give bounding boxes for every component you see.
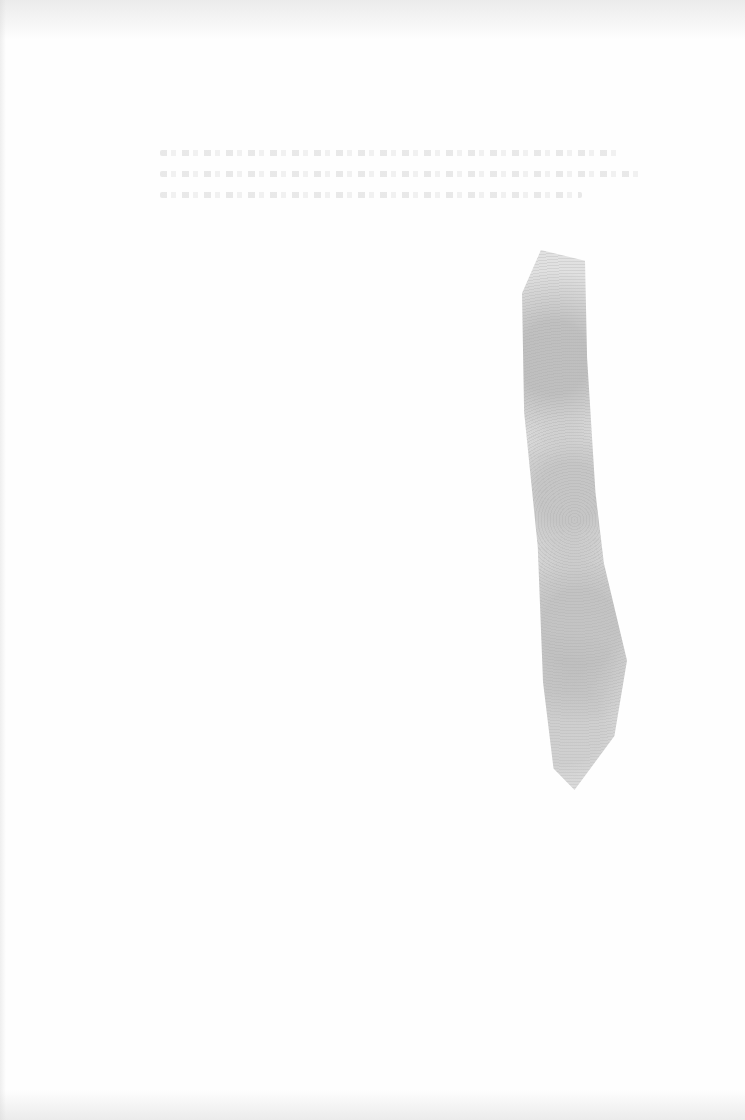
gray-smudge-mark [522, 250, 627, 790]
ghost-text-line [160, 192, 582, 198]
scan-edge-top [0, 0, 745, 40]
ghost-text-line [160, 171, 640, 177]
scan-edge-left [0, 0, 6, 1120]
ghost-text-line [160, 150, 621, 156]
illegible-bleed-through-text [160, 150, 640, 213]
scanned-page [0, 0, 745, 1120]
scan-edge-bottom [0, 1090, 745, 1120]
